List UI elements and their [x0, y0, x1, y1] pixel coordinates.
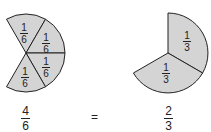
numerator: 4 — [22, 104, 29, 118]
denominator: 6 — [43, 44, 49, 55]
numerator: 2 — [165, 104, 172, 118]
fraction-pies — [0, 0, 211, 132]
denominator: 6 — [21, 34, 27, 45]
denominator: 3 — [163, 74, 169, 85]
right-sector-1-label: 1 3 — [183, 30, 191, 53]
left-caption: 4 6 — [21, 104, 30, 132]
numerator: 1 — [22, 66, 28, 77]
denominator: 3 — [165, 119, 172, 132]
numerator: 1 — [21, 22, 27, 33]
numerator: 1 — [43, 56, 49, 67]
right-sector-2-label: 1 3 — [162, 62, 170, 85]
left-pie — [7, 14, 66, 92]
equals-sign: = — [91, 112, 98, 123]
numerator: 1 — [43, 32, 49, 43]
left-sector-2-label: 1 6 — [42, 32, 50, 55]
denominator: 6 — [43, 68, 49, 79]
left-sector-4-label: 1 6 — [21, 66, 29, 89]
left-sector-1-label: 1 6 — [20, 22, 28, 45]
denominator: 6 — [22, 78, 28, 89]
left-sector-3-label: 1 6 — [42, 56, 50, 79]
numerator: 1 — [163, 62, 169, 73]
numerator: 1 — [184, 30, 190, 41]
right-pie — [133, 13, 208, 93]
right-caption: 2 3 — [164, 104, 173, 132]
denominator: 3 — [184, 42, 190, 53]
denominator: 6 — [22, 119, 29, 132]
